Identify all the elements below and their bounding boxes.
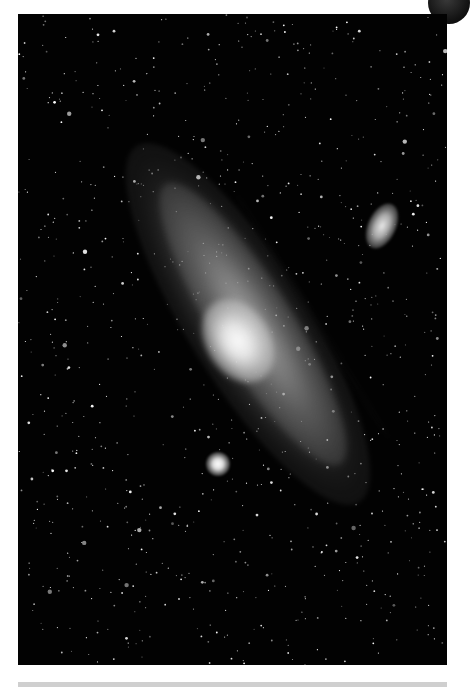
bottom-bar (18, 682, 447, 687)
galaxy-photo (18, 14, 447, 665)
satellite-galaxy-lower (206, 452, 230, 476)
